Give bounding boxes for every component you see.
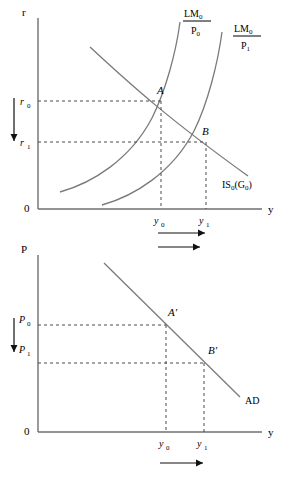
svg-text:LM0: LM0 xyxy=(234,23,253,36)
tick-y0: y 0 xyxy=(153,215,165,229)
svg-text:0: 0 xyxy=(161,221,165,229)
tick-r0: r 0 xyxy=(20,96,31,110)
lm0-p0-label: LM0 P0 xyxy=(183,8,211,38)
ad-curve-label: AD xyxy=(245,395,259,406)
point-b-label: B xyxy=(202,125,209,137)
svg-text:P0: P0 xyxy=(191,25,201,38)
svg-text:P1: P1 xyxy=(241,40,251,53)
svg-text:P: P xyxy=(18,344,25,355)
svg-text:y: y xyxy=(198,215,204,226)
svg-text:1: 1 xyxy=(206,221,210,229)
lm0-p1-label: LM0 P1 xyxy=(233,23,261,53)
tick-y0-bottom: y 0 xyxy=(158,438,170,452)
svg-text:1: 1 xyxy=(27,143,31,151)
svg-text:y: y xyxy=(196,438,202,449)
point-b-prime-label: B' xyxy=(208,344,218,356)
tick-y1: y 1 xyxy=(198,215,210,229)
lm0-p0-curve xyxy=(60,22,180,192)
point-a-label: A xyxy=(156,84,164,96)
svg-text:y: y xyxy=(153,215,159,226)
is-curve-label: IS0(G0) xyxy=(222,179,252,192)
tick-p1: P 1 xyxy=(18,344,31,358)
svg-text:1: 1 xyxy=(27,350,31,358)
tick-y1-bottom: y 1 xyxy=(196,438,208,452)
tick-p0: P 0 xyxy=(18,314,31,328)
lm0-p1-curve xyxy=(102,32,222,205)
economics-figure: r y 0 A B r 0 r 1 y 0 xyxy=(0,0,300,479)
top-x-axis-label: y xyxy=(268,203,274,215)
svg-text:r: r xyxy=(20,137,24,148)
svg-text:0: 0 xyxy=(166,444,170,452)
ad-curve xyxy=(104,263,240,397)
svg-text:LM0: LM0 xyxy=(184,8,203,21)
bottom-x-axis-label: y xyxy=(268,426,274,438)
svg-text:0: 0 xyxy=(27,320,31,328)
point-a-prime-label: A' xyxy=(167,306,178,318)
svg-text:0: 0 xyxy=(27,102,31,110)
ad-chart: P y 0 A' B' P 0 P 1 y 0 y 1 xyxy=(14,243,274,463)
bottom-origin-label: 0 xyxy=(24,425,30,437)
top-origin-label: 0 xyxy=(24,202,30,214)
svg-text:P: P xyxy=(18,314,25,325)
is-lm-chart: r y 0 A B r 0 r 1 y 0 xyxy=(14,6,274,233)
tick-r1: r 1 xyxy=(20,137,31,151)
bottom-y-axis-label: P xyxy=(21,243,27,255)
is-curve xyxy=(90,47,248,176)
svg-text:1: 1 xyxy=(204,444,208,452)
svg-text:y: y xyxy=(158,438,164,449)
top-y-axis-label: r xyxy=(22,6,26,18)
svg-text:r: r xyxy=(20,96,24,107)
